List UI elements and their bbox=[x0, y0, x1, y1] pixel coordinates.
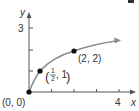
point-half-one bbox=[37, 68, 42, 73]
x-axis-arrow-icon bbox=[130, 90, 136, 95]
origin-label: (0, 0) bbox=[2, 97, 25, 108]
svg-text:2: 2 bbox=[51, 75, 55, 82]
point-half-one-label: ( 1 2 , 1 ) bbox=[45, 67, 70, 84]
chart-canvas: y 3 4 x (0, 0) (2, 2) ( 1 2 , 1 ) bbox=[0, 0, 139, 111]
point-two-two bbox=[71, 48, 76, 53]
svg-text:(: ( bbox=[45, 69, 50, 84]
y-tick-label-3: 3 bbox=[18, 23, 24, 34]
x-tick-label-4: 4 bbox=[115, 97, 121, 108]
point-two-two-label: (2, 2) bbox=[78, 53, 101, 64]
point-origin bbox=[26, 89, 31, 94]
y-ticks bbox=[29, 28, 33, 71]
x-axis-label: x bbox=[130, 97, 137, 108]
curve-arrow-icon bbox=[114, 38, 121, 44]
svg-text:1: 1 bbox=[51, 67, 55, 74]
y-axis-label: y bbox=[19, 7, 26, 18]
cropped-fragment bbox=[128, 0, 134, 3]
y-axis-arrow-icon bbox=[27, 12, 32, 18]
function-curve bbox=[29, 41, 116, 92]
svg-text:): ) bbox=[66, 69, 70, 84]
